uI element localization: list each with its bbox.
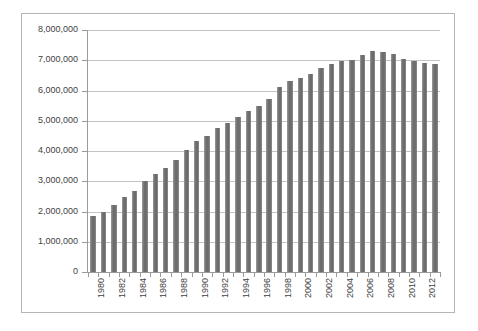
bar: [225, 123, 230, 272]
y-axis-label: 0: [73, 267, 78, 276]
x-axis-label: 1996: [263, 278, 272, 298]
x-axis-tick: [399, 272, 400, 277]
bar: [173, 160, 178, 272]
x-axis-tick: [181, 272, 182, 277]
bar: [163, 168, 168, 272]
x-axis-tick: [150, 272, 151, 277]
bar: [204, 136, 209, 272]
x-axis-label: 1994: [242, 278, 251, 298]
gridline-5000000: [88, 121, 440, 122]
x-axis-tick: [160, 272, 161, 277]
y-axis-tick: [82, 121, 87, 122]
x-axis-tick: [129, 272, 130, 277]
x-axis-tick: [409, 272, 410, 277]
y-axis-label: 7,000,000: [38, 55, 78, 64]
bar: [349, 60, 354, 272]
x-axis-tick: [202, 272, 203, 277]
x-axis-label: 2000: [304, 278, 313, 298]
bar: [194, 141, 199, 272]
x-axis-label: 2010: [408, 278, 417, 298]
y-axis-label: 5,000,000: [38, 116, 78, 125]
x-axis-tick: [223, 272, 224, 277]
bar: [184, 150, 189, 273]
bar: [401, 59, 406, 272]
bar: [90, 216, 95, 272]
bar: [101, 212, 106, 273]
x-axis-label: 2012: [428, 278, 437, 298]
bar: [360, 55, 365, 272]
x-axis-label: 1986: [159, 278, 168, 298]
x-axis-tick: [336, 272, 337, 277]
bar: [339, 61, 344, 272]
x-axis-tick: [305, 272, 306, 277]
x-axis-label: 1988: [180, 278, 189, 298]
x-axis-tick: [254, 272, 255, 277]
y-axis-label: 3,000,000: [38, 176, 78, 185]
bar: [308, 74, 313, 272]
y-axis-tick: [82, 272, 87, 273]
x-axis-label: 2008: [387, 278, 396, 298]
bar: [380, 52, 385, 272]
x-axis-tick: [98, 272, 99, 277]
gridline-8000000: [88, 30, 440, 31]
x-axis-tick: [109, 272, 110, 277]
bar: [111, 205, 116, 272]
x-axis-tick: [316, 272, 317, 277]
y-axis-tick: [82, 60, 87, 61]
y-axis-label: 1,000,000: [38, 237, 78, 246]
y-axis-label: 8,000,000: [38, 25, 78, 34]
x-axis-label: 1992: [221, 278, 230, 298]
bar: [246, 111, 251, 272]
bar: [142, 181, 147, 272]
chart-frame: 8,000,0007,000,0006,000,0005,000,0004,00…: [21, 13, 455, 313]
x-axis-labels: 1980198219841986198819901992199419961998…: [88, 278, 440, 312]
x-axis-tick: [192, 272, 193, 277]
gridline-4000000: [88, 151, 440, 152]
gridline-1000000: [88, 242, 440, 243]
bar: [411, 61, 416, 272]
y-axis-tick: [82, 30, 87, 31]
x-axis-tick: [171, 272, 172, 277]
x-axis-label: 2004: [346, 278, 355, 298]
bar: [132, 191, 137, 272]
bar: [422, 63, 427, 272]
bar: [256, 106, 261, 272]
x-axis-label: 1998: [284, 278, 293, 298]
x-axis-tick: [388, 272, 389, 277]
gridline-3000000: [88, 181, 440, 182]
x-axis-tick: [212, 272, 213, 277]
y-axis-labels: 8,000,0007,000,0006,000,0005,000,0004,00…: [22, 14, 78, 314]
y-axis-tick: [82, 91, 87, 92]
gridline-6000000: [88, 91, 440, 92]
bar: [432, 64, 437, 272]
x-axis-tick: [368, 272, 369, 277]
x-axis-tick: [233, 272, 234, 277]
y-axis-label: 2,000,000: [38, 207, 78, 216]
x-axis-tick: [430, 272, 431, 277]
x-axis-tick: [419, 272, 420, 277]
y-axis-tick: [82, 242, 87, 243]
x-axis-label: 2002: [325, 278, 334, 298]
x-axis-label: 2006: [366, 278, 375, 298]
gridline-2000000: [88, 212, 440, 213]
x-axis-tick: [140, 272, 141, 277]
x-axis-label: 1990: [201, 278, 210, 298]
x-axis-tick: [378, 272, 379, 277]
bar: [370, 51, 375, 272]
x-axis-label: 1984: [139, 278, 148, 298]
bar: [391, 54, 396, 272]
bar: [329, 64, 334, 272]
x-axis-tick: [264, 272, 265, 277]
x-axis-tick: [88, 272, 89, 277]
x-axis-tick: [295, 272, 296, 277]
bar: [153, 174, 158, 272]
y-axis-label: 4,000,000: [38, 146, 78, 155]
bar: [318, 68, 323, 272]
x-axis-tick: [285, 272, 286, 277]
x-axis-label: 1980: [97, 278, 106, 298]
bar: [235, 117, 240, 272]
y-axis-label: 6,000,000: [38, 86, 78, 95]
y-axis-tick: [82, 151, 87, 152]
bar: [287, 81, 292, 272]
y-axis-tick: [82, 212, 87, 213]
